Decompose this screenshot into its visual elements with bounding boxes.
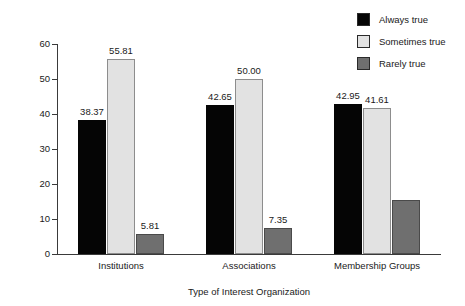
bar (334, 104, 362, 254)
bar (235, 79, 263, 254)
x-axis-category-label: Institutions (57, 260, 185, 271)
y-axis-tick-mark (52, 79, 57, 80)
legend-item-always-true: Always true (357, 10, 465, 29)
y-axis-tick-mark (52, 44, 57, 45)
bar (392, 200, 420, 254)
bar-value-label: 5.81 (132, 221, 168, 231)
bar (78, 120, 106, 254)
y-axis-tick-mark (52, 184, 57, 185)
y-axis-tick: 10 (57, 219, 58, 220)
bar-value-label: 38.37 (74, 107, 110, 117)
y-axis-tick-label: 40 (39, 108, 50, 119)
bar (363, 108, 391, 254)
legend-swatch-always-true (357, 13, 370, 26)
y-axis-tick: 50 (57, 79, 58, 80)
bar-value-label: 7.35 (260, 215, 296, 225)
y-axis-tick-label: 30 (39, 143, 50, 154)
bar-value-label: 50.00 (231, 66, 267, 76)
y-axis-tick: 0 (57, 254, 58, 255)
bar (136, 234, 164, 254)
y-axis-tick-label: 50 (39, 73, 50, 84)
x-axis-category-label: Membership Groups (313, 260, 441, 271)
legend-label-always-true: Always true (379, 15, 428, 25)
y-axis-tick: 40 (57, 114, 58, 115)
y-axis-tick-label: 0 (45, 248, 50, 259)
bar (206, 105, 234, 254)
bar-value-label: 41.61 (359, 95, 395, 105)
bar-value-label: 42.65 (202, 92, 238, 102)
y-axis-tick-label: 60 (39, 38, 50, 49)
bar (107, 59, 135, 254)
bar (264, 228, 292, 254)
plot-area: 010203040506038.3755.815.81Institutions4… (57, 44, 441, 255)
y-axis-tick-label: 10 (39, 213, 50, 224)
y-axis-tick: 30 (57, 149, 58, 150)
x-axis-title: Type of Interest Organization (57, 286, 441, 297)
y-axis-tick: 20 (57, 184, 58, 185)
y-axis-tick-mark (52, 114, 57, 115)
y-axis-tick-label: 20 (39, 178, 50, 189)
x-axis-line (57, 254, 441, 255)
y-axis-tick: 60 (57, 44, 58, 45)
bar-value-label: 55.81 (103, 46, 139, 56)
y-axis-tick-mark (52, 254, 57, 255)
x-axis-category-label: Associations (185, 260, 313, 271)
y-axis-tick-mark (52, 219, 57, 220)
y-axis-tick-mark (52, 149, 57, 150)
bar-chart: Always true Sometimes true Rarely true P… (0, 0, 465, 306)
